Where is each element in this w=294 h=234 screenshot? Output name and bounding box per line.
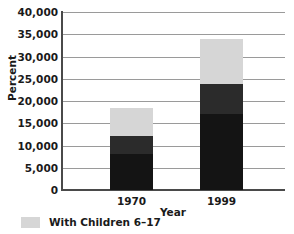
bar-1970-segment-light-gray (110, 108, 153, 136)
gridline-40000: 40,000 (63, 12, 285, 13)
bar-1970: 1970 (110, 108, 153, 190)
gridline-0: 0 (63, 190, 285, 191)
y-axis-title: Percent (6, 42, 18, 114)
gridline-30000: 30,000 (63, 57, 285, 58)
legend-label-with-children: With Children 6–17 (49, 216, 161, 228)
legend-swatch-with-children (21, 217, 40, 228)
y-tick-label-20000: 20,000 (17, 95, 58, 107)
stacked-bar-chart: Percent 40,000 35,000 30,000 25,000 20,0… (0, 0, 294, 234)
bar-1999: 1999 (200, 39, 243, 190)
bar-1999-segment-light-gray (200, 39, 243, 84)
y-tick-label-15000: 15,000 (17, 117, 58, 129)
bar-1970-segment-black (110, 154, 153, 190)
y-tick-label-0: 0 (51, 184, 58, 196)
bar-1999-segment-dark-gray (200, 84, 243, 114)
legend: With Children 6–17 (21, 216, 161, 228)
gridline-20000: 20,000 (63, 101, 285, 102)
y-tick-label-30000: 30,000 (17, 51, 58, 63)
gridline-25000: 25,000 (63, 79, 285, 80)
y-tick-label-40000: 40,000 (17, 6, 58, 18)
gridline-5000: 5,000 (63, 168, 285, 169)
y-tick-label-25000: 25,000 (17, 73, 58, 85)
plot-area: 40,000 35,000 30,000 25,000 20,000 15,00… (61, 12, 285, 190)
gridline-10000: 10,000 (63, 146, 285, 147)
gridline-15000: 15,000 (63, 123, 285, 124)
y-tick-label-5000: 5,000 (25, 162, 58, 174)
gridline-35000: 35,000 (63, 34, 285, 35)
bar-1970-segment-dark-gray (110, 136, 153, 154)
y-tick-label-10000: 10,000 (17, 140, 58, 152)
y-tick-label-35000: 35,000 (17, 28, 58, 40)
bar-1999-segment-black (200, 114, 243, 190)
